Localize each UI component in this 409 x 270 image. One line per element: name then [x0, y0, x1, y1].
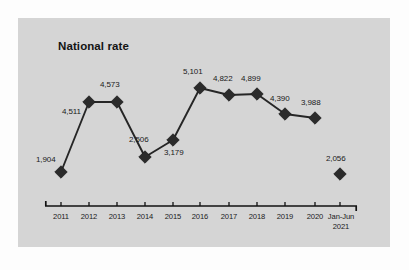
xtick-2014: 2014: [130, 212, 160, 222]
xtick-2012: 2012: [74, 212, 104, 222]
xtick-2011: 2011: [46, 212, 76, 222]
xtick-2018: 2018: [242, 212, 272, 222]
xtick-janjun2021-line1: Jan-Jun: [328, 212, 354, 221]
point-label-2013: 4,573: [100, 80, 120, 89]
point-label-janjun2021: 2,056: [326, 154, 346, 163]
xtick-janjun2021-line2: 2021: [333, 222, 350, 231]
point-label-2020: 3,988: [301, 98, 321, 107]
xtick-2015: 2015: [158, 212, 188, 222]
point-label-2019: 4,390: [270, 94, 290, 103]
chart-panel: National rate: [18, 18, 390, 247]
point-label-2017: 4,822: [213, 74, 233, 83]
point-label-2014: 2,506: [129, 135, 149, 144]
point-label-2011: 1,904: [36, 155, 56, 164]
point-label-2018: 4,899: [241, 74, 261, 83]
point-label-2012: 4,511: [62, 107, 81, 116]
xtick-janjun2021: Jan-Jun 2021: [320, 212, 362, 231]
xtick-2016: 2016: [185, 212, 215, 222]
x-axis: [45, 201, 357, 211]
series-markers: [55, 82, 346, 180]
point-label-2016: 5,101: [183, 67, 203, 76]
point-label-2015: 3,179: [164, 148, 184, 157]
xtick-2019: 2019: [270, 212, 300, 222]
xtick-2013: 2013: [102, 212, 132, 222]
xtick-2017: 2017: [214, 212, 244, 222]
